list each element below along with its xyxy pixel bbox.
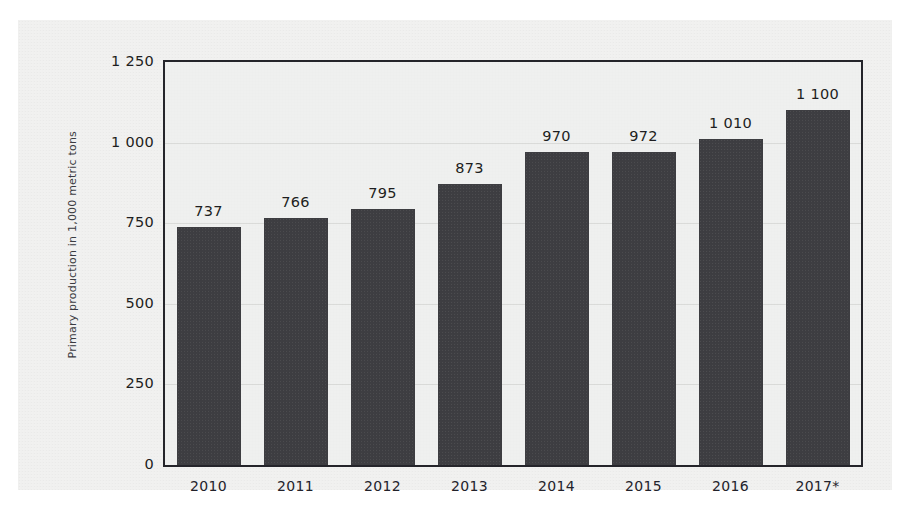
bar-value-label: 972 [599, 128, 689, 144]
chart-figure: Primary production in 1,000 metric tons … [0, 0, 909, 514]
y-axis-tick-labels: 1 250 1 000 750 500 250 0 [96, 20, 154, 490]
x-tick-label: 2015 [599, 478, 689, 494]
x-tick-label: 2016 [686, 478, 776, 494]
bar[interactable] [264, 218, 328, 465]
y-tick-label: 500 [125, 295, 154, 311]
y-tick-label: 0 [144, 456, 154, 472]
bar-value-label: 1 010 [686, 115, 776, 131]
bar[interactable] [525, 152, 589, 465]
y-axis-title: Primary production in 1,000 metric tons [66, 159, 79, 359]
figure-canvas: Primary production in 1,000 metric tons … [18, 20, 892, 490]
x-tick-label: 2013 [425, 478, 515, 494]
y-tick-label: 750 [125, 214, 154, 230]
bar[interactable] [786, 110, 850, 465]
bar-value-label: 970 [512, 128, 602, 144]
x-tick-label: 2011 [251, 478, 341, 494]
bar-value-label: 766 [251, 194, 341, 210]
bar[interactable] [438, 184, 502, 465]
bar[interactable] [612, 152, 676, 465]
x-tick-label: 2012 [338, 478, 428, 494]
y-tick-label: 250 [125, 375, 154, 391]
x-tick-label: 2010 [164, 478, 254, 494]
bar-value-label: 1 100 [773, 86, 863, 102]
bar[interactable] [177, 227, 241, 465]
bar[interactable] [351, 209, 415, 465]
y-tick-label: 1 000 [111, 134, 154, 150]
bar-value-label: 873 [425, 160, 515, 176]
y-tick-label: 1 250 [111, 53, 154, 69]
bar-value-label: 737 [164, 203, 254, 219]
bar-value-label: 795 [338, 185, 428, 201]
bar[interactable] [699, 139, 763, 465]
x-tick-label: 2017* [773, 478, 863, 494]
x-tick-label: 2014 [512, 478, 602, 494]
